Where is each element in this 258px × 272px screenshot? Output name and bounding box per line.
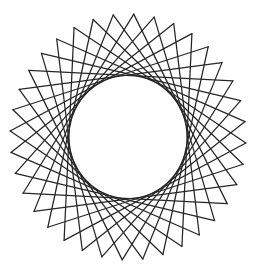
string-art-diagram xyxy=(0,0,258,272)
background xyxy=(0,0,258,272)
